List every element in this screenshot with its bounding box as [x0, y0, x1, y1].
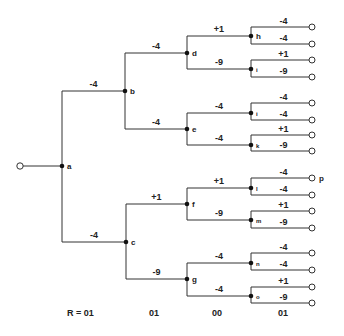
- tree-edge: [62, 91, 125, 166]
- leaf-weight-label: +1: [278, 200, 288, 210]
- node-label: i: [256, 111, 258, 117]
- node-label: a: [67, 162, 72, 171]
- root-terminal-icon: [17, 163, 23, 169]
- node-dot-icon: [185, 51, 190, 56]
- node-label: e: [192, 125, 197, 134]
- node-label: d: [192, 49, 197, 58]
- edge-weight-label: +1: [214, 176, 224, 186]
- leaf-terminal-icon: [309, 57, 315, 63]
- node-label: i: [256, 67, 258, 73]
- leaf-label: p: [319, 174, 324, 183]
- edge-weight-label: -4: [215, 133, 223, 143]
- leaf-terminal-icon: [309, 300, 315, 306]
- node-dot-icon: [249, 111, 254, 116]
- node-dot-icon: [249, 186, 254, 191]
- node-label: l: [256, 186, 258, 192]
- node-label: c: [131, 238, 136, 247]
- leaf-terminal-icon: [309, 192, 315, 198]
- node-dot-icon: [249, 294, 254, 299]
- leaf-terminal-icon: [309, 41, 315, 47]
- node-label: h: [256, 32, 261, 41]
- node-dot-icon: [185, 127, 190, 132]
- edge-weight-label: +1: [151, 192, 161, 202]
- node-dot-icon: [60, 164, 65, 169]
- tree-edge: [126, 204, 187, 242]
- edge-weight-label: -9: [215, 208, 223, 218]
- edge-weight-labels: -4-4-4-4+1-9+1-9-4-4+1-9-4-4-4-4+1-9-4-4…: [89, 16, 288, 302]
- leaf-terminal-icon: [309, 117, 315, 123]
- leaf-weight-label: -4: [279, 16, 287, 26]
- leaf-terminal-icon: [309, 74, 315, 80]
- edge-weight-label: -4: [215, 284, 223, 294]
- leaf-weight-label: +1: [278, 49, 288, 59]
- leaf-weight-label: +1: [278, 276, 288, 286]
- node-label: m: [256, 218, 261, 224]
- node-label: f: [192, 200, 195, 209]
- leaf-weight-label: -4: [279, 92, 287, 102]
- edge-weight-label: -4: [215, 251, 223, 261]
- node-dot-icon: [249, 261, 254, 266]
- edge-weight-label: -4: [152, 117, 160, 127]
- level-code-label: 01: [149, 308, 159, 318]
- level-code-label: 01: [278, 308, 288, 318]
- edge-weight-label: +1: [214, 24, 224, 34]
- leaf-terminal-icon: [309, 100, 315, 106]
- node-label: g: [192, 275, 197, 284]
- leaf-terminal-icon: [309, 208, 315, 214]
- node-dot-icon: [249, 218, 254, 223]
- leaf-weight-label: -4: [279, 167, 287, 177]
- decision-tree-diagram: -4-4-4-4+1-9+1-9-4-4+1-9-4-4-4-4+1-9-4-4…: [0, 0, 344, 336]
- leaf-terminal-icon: [309, 132, 315, 138]
- node-label: n: [256, 261, 260, 267]
- level-code-label: 00: [212, 308, 222, 318]
- leaf-terminal-icon: [309, 148, 315, 154]
- edge-weight-label: -9: [152, 267, 160, 277]
- level-labels-row: R = 01010001: [67, 308, 288, 318]
- leaf-weight-label: +1: [278, 124, 288, 134]
- tree-edge: [125, 53, 187, 91]
- leaf-terminal-icon: [309, 267, 315, 273]
- leaf-weight-label: -4: [279, 109, 287, 119]
- leaf-weight-label: -4: [279, 184, 287, 194]
- level-code-label: R = 01: [67, 308, 94, 318]
- node-dot-icon: [124, 240, 129, 245]
- leaf-weight-label: -9: [279, 217, 287, 227]
- node-dot-icon: [185, 202, 190, 207]
- edge-weight-label: -4: [215, 101, 223, 111]
- node-dot-icon: [249, 67, 254, 72]
- leaf-weight-label: -9: [279, 140, 287, 150]
- leaf-terminal-icon: [309, 24, 315, 30]
- tree-edge: [187, 188, 251, 204]
- tree-edge: [187, 113, 251, 129]
- leaf-terminal-icon: [309, 225, 315, 231]
- leaf-weight-label: -4: [279, 242, 287, 252]
- tree-nodes: abcdefghiiklmno: [60, 32, 262, 300]
- leaf-terminal-icon: [309, 250, 315, 256]
- edge-weight-label: -4: [152, 41, 160, 51]
- node-label: o: [256, 294, 260, 300]
- node-dot-icon: [123, 89, 128, 94]
- edge-weight-label: -9: [215, 57, 223, 67]
- leaf-terminal-icon: [309, 284, 315, 290]
- edge-weight-label: -4: [89, 79, 97, 89]
- node-dot-icon: [249, 34, 254, 39]
- leaf-weight-label: -4: [279, 259, 287, 269]
- node-dot-icon: [249, 143, 254, 148]
- node-dot-icon: [185, 277, 190, 282]
- edge-weight-label: -4: [90, 230, 98, 240]
- leaf-weight-label: -9: [279, 292, 287, 302]
- node-label: k: [256, 143, 260, 149]
- leaf-weight-label: -4: [279, 33, 287, 43]
- leaf-terminal-icon: [309, 175, 315, 181]
- leaf-weight-label: -9: [279, 66, 287, 76]
- node-label: b: [130, 87, 135, 96]
